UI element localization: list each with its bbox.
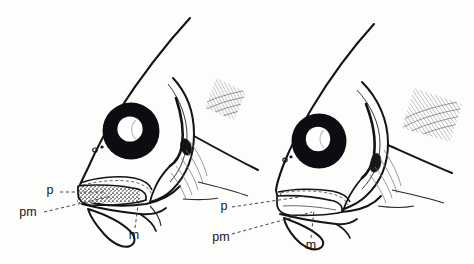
label-p-right: p: [221, 199, 228, 213]
eye-right: [292, 114, 347, 169]
label-m-right: m: [306, 238, 316, 252]
fish-anatomy-figure: p pm m: [0, 0, 474, 264]
figure-background: [0, 0, 474, 264]
label-p-left: p: [47, 183, 54, 197]
figure-canvas: p pm m: [0, 0, 474, 264]
label-m-left: m: [129, 228, 139, 242]
eye-left: [103, 103, 160, 160]
posterior-nostril-right: [289, 156, 292, 159]
eye-pupil-right: [306, 127, 330, 151]
posterior-nostril-left: [100, 146, 103, 149]
label-pm-left: pm: [19, 205, 36, 219]
label-pm-right: pm: [212, 230, 229, 244]
eye-pupil-left: [117, 116, 142, 141]
